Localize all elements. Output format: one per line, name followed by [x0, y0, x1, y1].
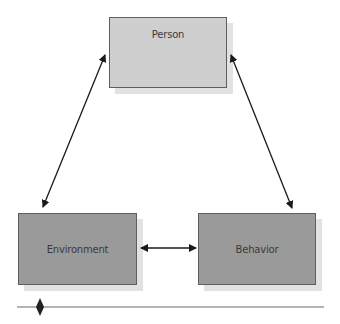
arrow-person-environment — [43, 55, 105, 207]
diagram-canvas: Person Environment Behavior — [0, 0, 340, 324]
connectors-layer — [0, 0, 340, 324]
diamond-marker-icon — [36, 298, 44, 316]
arrow-person-behavior — [231, 55, 292, 208]
